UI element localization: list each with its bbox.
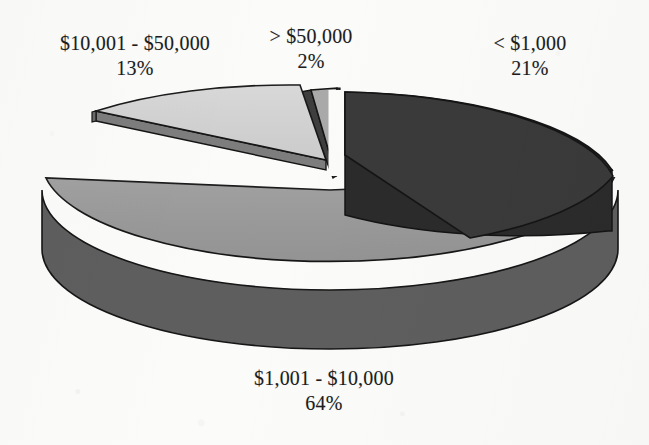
slice-label-category: < $1,000 [440,31,620,56]
slice-label-over-50000: > $50,000 2% [243,24,379,74]
pie-slice-10001-50000 [92,85,326,170]
slice-label-percent: 13% [24,56,246,81]
slice-label-category: $10,001 - $50,000 [24,31,246,56]
slice-label-percent: 2% [243,49,379,74]
slice-label-1001-10000: $1,001 - $10,000 64% [212,366,436,416]
slice-label-under-1000: < $1,000 21% [440,31,620,81]
slice-label-category: $1,001 - $10,000 [212,366,436,391]
slice-label-category: > $50,000 [243,24,379,49]
slice-label-percent: 21% [440,56,620,81]
explode-gap [330,90,344,176]
pie-chart-figure: $10,001 - $50,000 13% > $50,000 2% < $1,… [0,0,649,445]
slice-label-10001-50000: $10,001 - $50,000 13% [24,31,246,81]
pie-slice-under-1000 [345,92,613,238]
slice-label-percent: 64% [212,391,436,416]
